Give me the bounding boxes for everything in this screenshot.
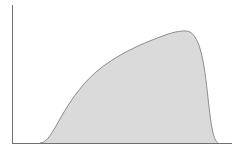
area-fill (12, 31, 218, 143)
area-chart (0, 0, 240, 154)
